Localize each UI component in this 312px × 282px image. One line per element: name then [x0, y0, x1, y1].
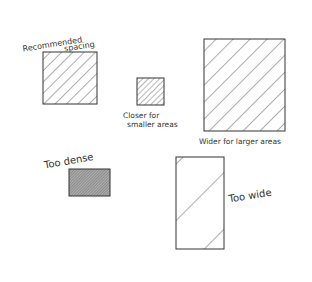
too-dense-box: [69, 169, 110, 196]
too-dense-label-group: Too dense: [42, 151, 94, 171]
closer-label-line2: smaller areas: [127, 120, 178, 129]
recommended-spacing-box: [43, 52, 97, 104]
hatch-spacing-diagram: Recommended spacing spacing Closer for s…: [0, 0, 312, 282]
closer-label-line1: Closer for: [123, 111, 160, 120]
too-wide-box: [176, 157, 224, 249]
closer-spacing-box: [137, 78, 164, 105]
too-dense-label: Too dense: [42, 151, 94, 171]
wider-spacing-box: [204, 39, 285, 131]
wider-label: Wider for larger areas: [199, 137, 281, 146]
too-wide-label-group: Too wide: [227, 187, 272, 205]
too-wide-label: Too wide: [227, 187, 272, 205]
